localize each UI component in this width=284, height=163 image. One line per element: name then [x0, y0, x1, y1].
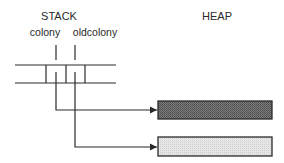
- pointer-colony-to-dark-object: [56, 72, 157, 110]
- heap-object-light: [158, 137, 272, 156]
- stack-heap-diagram: STACK HEAP colony oldcolony: [0, 0, 284, 163]
- stack-frame: [15, 65, 116, 83]
- variable-label-colony: colony: [30, 26, 61, 38]
- heap-title: HEAP: [202, 10, 232, 22]
- stack-title: STACK: [41, 10, 78, 22]
- variable-label-oldcolony: oldcolony: [73, 26, 118, 38]
- heap-object-dark: [158, 101, 272, 119]
